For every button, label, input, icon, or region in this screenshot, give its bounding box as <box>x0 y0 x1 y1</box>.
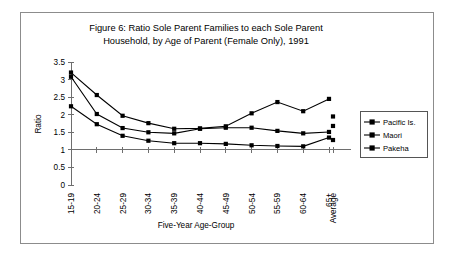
data-point <box>250 126 254 130</box>
data-point <box>198 141 202 145</box>
data-point <box>69 104 73 108</box>
chart-title-line-2: Household, by Age of Parent (Female Only… <box>103 36 309 46</box>
data-point <box>69 75 73 79</box>
legend-label: Maori <box>383 131 402 140</box>
legend-marker <box>370 145 375 150</box>
y-tick-label: 2.5 <box>54 93 66 102</box>
data-point <box>250 143 254 147</box>
data-point <box>121 114 125 118</box>
data-point <box>146 139 150 143</box>
data-point <box>275 144 279 148</box>
series-line <box>71 106 329 146</box>
data-point-average <box>331 138 335 142</box>
chart-canvas: Figure 6: Ratio Sole Parent Families to … <box>21 13 433 243</box>
data-point <box>146 130 150 134</box>
data-point <box>95 122 99 126</box>
figure-frame: Figure 6: Ratio Sole Parent Families to … <box>20 12 434 244</box>
y-tick-label: 1.5 <box>54 128 66 137</box>
data-point <box>172 127 176 131</box>
x-tick-label: 30-34 <box>144 193 153 214</box>
x-tick-label: 35-39 <box>170 193 179 214</box>
data-point <box>172 131 176 135</box>
x-tick-label: 15-19 <box>67 193 76 214</box>
x-tick-label: 50-54 <box>248 193 257 214</box>
y-tick-label: 0 <box>60 181 65 190</box>
data-point <box>301 109 305 113</box>
data-point <box>224 126 228 130</box>
data-point <box>198 127 202 131</box>
legend-label: Pakeha <box>383 144 410 153</box>
series-pakeha <box>69 104 335 148</box>
x-tick-label: 25-29 <box>119 193 128 214</box>
data-point <box>275 100 279 104</box>
legend-label: Pacific Is. <box>383 118 416 127</box>
y-tick-label: 3.5 <box>54 58 66 67</box>
data-point <box>121 126 125 130</box>
series-pacific-is <box>69 70 335 130</box>
data-point <box>95 112 99 116</box>
data-point <box>301 131 305 135</box>
data-point-average <box>331 124 335 128</box>
x-tick-label: 55-59 <box>273 193 282 214</box>
y-axis-title: Ratio <box>34 114 43 134</box>
y-tick-label: 1 <box>60 146 65 155</box>
data-point <box>327 130 331 134</box>
data-point-average <box>331 114 335 118</box>
data-point <box>95 93 99 97</box>
x-axis-title: Five-Year Age-Group <box>158 221 235 230</box>
x-tick-label: 60-64 <box>299 193 308 214</box>
data-point <box>327 97 331 101</box>
data-point <box>275 129 279 133</box>
data-point <box>250 111 254 115</box>
legend-marker <box>370 119 375 124</box>
chart-title-line-1: Figure 6: Ratio Sole Parent Families to … <box>89 23 323 33</box>
legend-marker <box>370 132 375 137</box>
x-tick-label: 40-44 <box>196 193 205 214</box>
data-point <box>301 144 305 148</box>
y-tick-label: 3 <box>60 76 65 85</box>
x-tick-label: 45-49 <box>222 193 231 214</box>
data-point <box>69 70 73 74</box>
y-tick-label: 2 <box>60 111 65 120</box>
series-line <box>71 73 329 129</box>
data-point <box>146 121 150 125</box>
data-point <box>224 142 228 146</box>
data-point <box>172 141 176 145</box>
x-tick-label-average: Average <box>329 193 338 224</box>
data-point <box>327 135 331 139</box>
data-point <box>121 134 125 138</box>
y-tick-label: 0.5 <box>54 163 66 172</box>
x-tick-label: 20-24 <box>93 193 102 214</box>
